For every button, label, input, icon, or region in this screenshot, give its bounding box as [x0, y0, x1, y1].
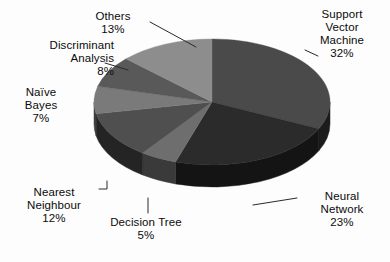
slice-label-neural-network: Neural Network 23% — [300, 190, 384, 229]
slice-label-support-vector-machine: Support Vector Machine 32% — [300, 8, 384, 60]
pie-top-surface — [94, 39, 330, 165]
slice-label-naive-bayes: Naïve Bayes 7% — [10, 86, 72, 125]
slice-label-decision-tree: Decision Tree 5% — [98, 216, 194, 242]
slice-label-others: Others 13% — [78, 10, 148, 36]
slice-label-nearest-neighbour: Nearest Neighbour 12% — [4, 186, 104, 225]
slice-label-discriminant-analysis: Discriminant Analysis 8% — [6, 39, 114, 78]
pie-chart-figure: Others 13% Discriminant Analysis 8% Naïv… — [0, 0, 390, 262]
leader-line-neural-network — [253, 198, 297, 205]
